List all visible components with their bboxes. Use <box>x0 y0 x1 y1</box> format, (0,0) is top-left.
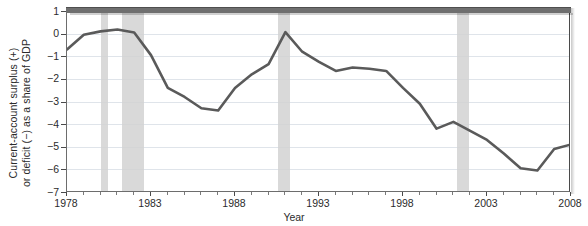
y-axis-tick-label: −4 <box>47 119 59 130</box>
x-axis-tick-label: 2008 <box>558 198 581 209</box>
y-axis-tick-label: −1 <box>47 51 59 62</box>
y-axis-tick-label: −5 <box>47 141 59 152</box>
x-axis-tick-minor <box>83 192 84 195</box>
x-axis-tick-minor <box>251 192 252 195</box>
y-axis-tick-label: 0 <box>53 28 59 39</box>
x-axis-tick-minor <box>167 192 168 195</box>
x-axis-tick-major <box>234 192 235 196</box>
y-axis-tick-label: −3 <box>47 96 59 107</box>
x-axis-tick-minor <box>184 192 185 195</box>
y-axis-title-line2: or deficit (−) as a share of GDP <box>20 39 32 187</box>
x-axis-tick-minor <box>100 192 101 195</box>
y-axis-tick-label: −6 <box>47 164 59 175</box>
x-axis-tick-minor <box>352 192 353 195</box>
x-axis-tick-minor <box>268 192 269 195</box>
y-axis-title: Current-account surplus (+) or deficit (… <box>0 0 40 226</box>
x-axis-tick-label: 2003 <box>474 198 497 209</box>
x-axis-tick-minor <box>368 192 369 195</box>
x-axis-tick-major <box>486 192 487 196</box>
recession-band <box>569 11 570 191</box>
x-axis-tick-major <box>570 192 571 196</box>
x-axis-tick-label: 1993 <box>306 198 329 209</box>
chart-figure: Current-account surplus (+) or deficit (… <box>0 0 588 226</box>
x-axis-tick-minor <box>436 192 437 195</box>
x-axis-tick-major <box>318 192 319 196</box>
x-axis-tick-minor <box>284 192 285 195</box>
x-axis-tick-label: 1998 <box>390 198 413 209</box>
x-axis-tick-minor <box>419 192 420 195</box>
x-axis-tick-minor <box>503 192 504 195</box>
x-axis-tick-label: 1983 <box>138 198 161 209</box>
x-axis-tick-minor <box>301 192 302 195</box>
x-axis-tick-minor <box>133 192 134 195</box>
y-axis-tick-label: −7 <box>47 187 59 198</box>
x-axis-tick-label: 1978 <box>54 198 77 209</box>
x-axis-title: Year <box>0 211 588 223</box>
x-axis-tick-major <box>150 192 151 196</box>
x-axis-tick-minor <box>200 192 201 195</box>
x-axis-tick-minor <box>553 192 554 195</box>
x-axis-tick-minor <box>116 192 117 195</box>
x-axis-tick-minor <box>217 192 218 195</box>
x-axis-tick-minor <box>385 192 386 195</box>
x-axis-tick-minor <box>520 192 521 195</box>
y-axis-title-line1: Current-account surplus (+) <box>7 48 19 179</box>
x-axis-tick-minor <box>469 192 470 195</box>
x-axis-tick-major <box>402 192 403 196</box>
plot-area <box>66 11 570 192</box>
y-axis-tick-label: −2 <box>47 73 59 84</box>
plot-top-border-shadow <box>70 13 573 15</box>
plot-right-edge-shadow <box>571 8 575 194</box>
x-axis-tick-major <box>66 192 67 196</box>
x-axis-tick-label: 1988 <box>222 198 245 209</box>
x-axis-tick-minor <box>335 192 336 195</box>
x-axis-tick-minor <box>452 192 453 195</box>
x-axis-tick-minor <box>536 192 537 195</box>
y-axis-tick-label: 1 <box>53 6 59 17</box>
data-line-series <box>67 11 570 192</box>
current-account-line <box>67 30 570 171</box>
